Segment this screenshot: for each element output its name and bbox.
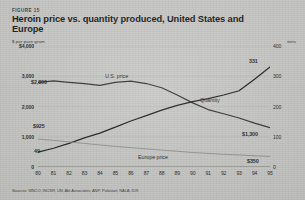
- figure-container: FIGURE 15 Heroin price vs. quantity prod…: [0, 0, 305, 200]
- value-label-us-price-end: $1,300: [242, 131, 258, 137]
- y-axis-tick-left: $4,000: [0, 43, 34, 49]
- x-axis-tick: 81: [46, 170, 60, 176]
- value-label-us-price-start: $2,800: [31, 79, 47, 85]
- x-axis-tick: 83: [77, 170, 91, 176]
- value-label-europe-price-end: $350: [247, 158, 259, 164]
- x-axis-tick: 91: [201, 170, 215, 176]
- y-axis-tick-left: 1,000: [0, 134, 34, 140]
- x-axis-tick: 82: [62, 170, 76, 176]
- chart-svg: [38, 46, 270, 167]
- chart-plot-area: [38, 46, 270, 167]
- y-axis-tick-left: 0: [0, 164, 34, 170]
- source-note: Sources: MNCO; INCSR; UN; Abt Associates…: [12, 188, 138, 193]
- x-axis-tick: 92: [217, 170, 231, 176]
- series-line-quantity: [38, 67, 270, 152]
- y-axis-tick-right: 100: [273, 134, 303, 140]
- y-axis-tick-right: 200: [273, 104, 303, 110]
- x-axis-tick: 93: [232, 170, 246, 176]
- y-axis-tick-right: 0: [273, 164, 303, 170]
- y-axis-tick-left: 2,000: [0, 104, 34, 110]
- y-axis-tick-right: 300: [273, 73, 303, 79]
- x-axis-tick: 89: [170, 170, 184, 176]
- series-label-us-price: U.S. price: [105, 73, 128, 79]
- x-axis-tick: 90: [186, 170, 200, 176]
- x-axis-tick: 87: [139, 170, 153, 176]
- value-label-europe-price-start: $925: [33, 123, 45, 129]
- x-axis-tick: 88: [155, 170, 169, 176]
- x-axis-tick: 86: [124, 170, 138, 176]
- x-axis-tick: 94: [248, 170, 262, 176]
- y-axis-tick-left: 3,000: [0, 73, 34, 79]
- x-axis-tick: 95: [263, 170, 277, 176]
- x-axis-tick: 80: [31, 170, 45, 176]
- x-axis-tick: 84: [93, 170, 107, 176]
- value-label-quantity-start: 49: [34, 148, 40, 154]
- series-line-u-s-price: [38, 81, 270, 128]
- value-label-quantity-end: 331: [249, 58, 258, 64]
- y-axis-tick-right: 400: [273, 43, 303, 49]
- series-label-quantity: Quantity: [200, 97, 220, 103]
- x-axis-tick: 85: [108, 170, 122, 176]
- series-label-europe-price: Europe price: [138, 154, 168, 160]
- figure-number: FIGURE 15: [12, 8, 40, 13]
- page-title: Heroin price vs. quantity produced, Unit…: [12, 14, 270, 35]
